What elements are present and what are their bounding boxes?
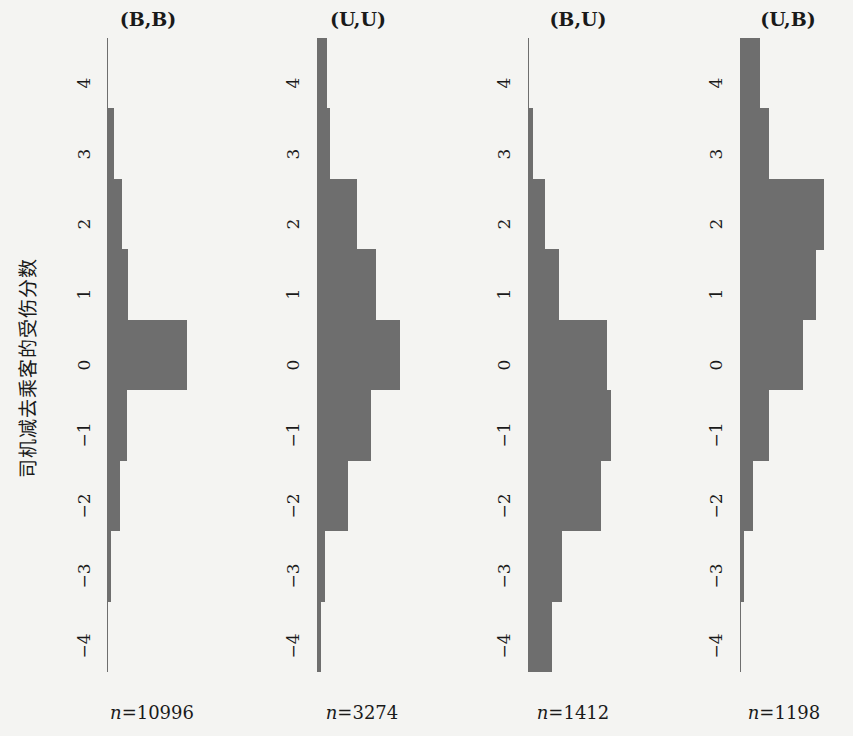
- histogram-bar: [528, 179, 545, 250]
- histogram-bar: [107, 38, 108, 109]
- histogram-bar: [740, 390, 769, 461]
- histogram-bar: [107, 320, 187, 391]
- axis-tick-label: 0: [283, 359, 303, 370]
- histogram-bar: [740, 179, 824, 250]
- histogram-bar: [740, 38, 760, 109]
- axis-tick-label: 4: [706, 78, 726, 89]
- axis-tick-label: −4: [283, 634, 303, 659]
- axis-tick-label: −4: [74, 634, 94, 659]
- axis-tick-label: 1: [283, 289, 303, 300]
- histogram-bar: [740, 320, 803, 391]
- histogram-bar: [317, 390, 371, 461]
- histogram-bar: [317, 38, 327, 109]
- histogram-bar: [107, 179, 122, 250]
- histogram-bar: [107, 108, 114, 179]
- axis-tick-label: 3: [74, 148, 94, 159]
- axis-tick-label: 2: [74, 219, 94, 230]
- histogram-bar: [317, 249, 376, 320]
- axis-tick-label: −1: [283, 423, 303, 448]
- axis-tick-label: 2: [283, 219, 303, 230]
- histogram-bar: [740, 460, 753, 531]
- axis-tick-label: −1: [74, 423, 94, 448]
- histogram-bar: [317, 179, 357, 250]
- axis-tick-label: 4: [494, 78, 514, 89]
- histogram-bar: [317, 531, 325, 602]
- histogram-bar: [317, 601, 321, 672]
- histogram-bar: [317, 460, 348, 531]
- axis-tick-label: −3: [706, 563, 726, 588]
- histogram-bar: [528, 390, 611, 461]
- histogram-bar: [528, 108, 533, 179]
- panel-n-bb: n=10996: [110, 702, 194, 723]
- panel-title-bu: (B,U): [549, 8, 606, 30]
- histogram-bar: [528, 38, 529, 109]
- histogram-bar: [528, 531, 562, 602]
- histogram-bar: [740, 249, 816, 320]
- histogram-bar: [528, 249, 559, 320]
- axis-tick-label: 3: [494, 148, 514, 159]
- axis-tick-label: 0: [74, 359, 94, 370]
- axis-tick-label: 2: [706, 219, 726, 230]
- axis-tick-label: 3: [706, 148, 726, 159]
- axis-tick-label: −3: [283, 563, 303, 588]
- axis-tick-label: −1: [706, 423, 726, 448]
- axis-tick-label: 1: [494, 289, 514, 300]
- axis-tick-label: 4: [283, 78, 303, 89]
- axis-tick-label: −3: [74, 563, 94, 588]
- histogram-bar: [740, 108, 769, 179]
- histogram-bar: [107, 601, 108, 672]
- axis-tick-label: 4: [74, 78, 94, 89]
- histogram-bar: [107, 249, 128, 320]
- histogram-bar: [740, 531, 744, 602]
- panel-n-uu: n=3274: [326, 702, 398, 723]
- histogram-bar: [740, 601, 741, 672]
- axis-tick-label: −3: [494, 563, 514, 588]
- axis-tick-label: 1: [706, 289, 726, 300]
- axis-tick-label: −1: [494, 423, 514, 448]
- histogram-bar: [317, 320, 400, 391]
- panel-title-ub: (U,B): [760, 8, 815, 30]
- panel-title-uu: (U,U): [330, 8, 386, 30]
- axis-tick-label: 3: [283, 148, 303, 159]
- axis-tick-label: 1: [74, 289, 94, 300]
- panel-n-bu: n=1412: [537, 702, 609, 723]
- axis-tick-label: −4: [706, 634, 726, 659]
- panel-title-bb: (B,B): [120, 8, 177, 30]
- histogram-bar: [107, 531, 111, 602]
- y-axis-label: 司机减去乘客的受伤分数: [13, 258, 40, 478]
- axis-tick-label: 0: [494, 359, 514, 370]
- axis-tick-label: −2: [74, 493, 94, 518]
- histogram-bar: [107, 460, 120, 531]
- axis-tick-label: −2: [706, 493, 726, 518]
- histogram-bar: [528, 460, 601, 531]
- histogram-bar: [107, 390, 127, 461]
- axis-tick-label: −2: [494, 493, 514, 518]
- panel-n-ub: n=1198: [748, 702, 820, 723]
- axis-tick-label: −4: [494, 634, 514, 659]
- axis-tick-label: −2: [283, 493, 303, 518]
- axis-tick-label: 2: [494, 219, 514, 230]
- histogram-bar: [317, 108, 330, 179]
- histogram-bar: [528, 601, 552, 672]
- axis-tick-label: 0: [706, 359, 726, 370]
- histogram-bar: [528, 320, 607, 391]
